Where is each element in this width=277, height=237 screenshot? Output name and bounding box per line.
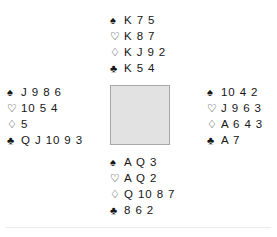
heart-icon: ♡ [207, 100, 221, 116]
hand-south-diamonds-holding: Q 10 8 7 [124, 186, 175, 202]
hand-east-spades-holding: 10 4 2 [221, 84, 258, 100]
bridge-deal-diagram: ♠ K 7 5 ♡ K 8 7 ♢ K J 9 2 ♣ K 5 4 ♠ J 9 … [0, 0, 277, 237]
diamond-icon: ♢ [7, 116, 21, 132]
spade-icon: ♠ [7, 84, 21, 100]
hand-south-spades-holding: A Q 3 [124, 154, 157, 170]
spade-icon: ♠ [207, 84, 221, 100]
diamond-icon: ♢ [110, 44, 124, 60]
club-icon: ♣ [7, 132, 21, 148]
hand-north-diamonds-row: ♢ K J 9 2 [110, 44, 166, 60]
hand-west: ♠ J 9 8 6 ♡ 10 5 4 ♢ 5 ♣ Q J 10 9 3 [7, 84, 83, 148]
hand-west-hearts-holding: 10 5 4 [21, 100, 58, 116]
hand-south: ♠ A Q 3 ♡ A Q 2 ♢ Q 10 8 7 ♣ 8 6 2 [110, 154, 175, 218]
hand-east-spades-row: ♠ 10 4 2 [207, 84, 263, 100]
hand-west-clubs-holding: Q J 10 9 3 [21, 132, 83, 148]
hand-north-hearts-holding: K 8 7 [124, 28, 155, 44]
heart-icon: ♡ [110, 28, 124, 44]
hand-east-clubs-holding: A 7 [221, 132, 240, 148]
hand-south-clubs-row: ♣ 8 6 2 [110, 202, 175, 218]
hand-east-diamonds-holding: A 6 4 3 [221, 116, 263, 132]
compass-center-box [110, 85, 170, 145]
hand-south-clubs-holding: 8 6 2 [124, 202, 154, 218]
hand-west-diamonds-row: ♢ 5 [7, 116, 83, 132]
hand-west-hearts-row: ♡ 10 5 4 [7, 100, 83, 116]
hand-east-hearts-holding: J 9 6 3 [221, 100, 262, 116]
hand-east-hearts-row: ♡ J 9 6 3 [207, 100, 263, 116]
hand-north-hearts-row: ♡ K 8 7 [110, 28, 166, 44]
hand-north-clubs-row: ♣ K 5 4 [110, 60, 166, 76]
club-icon: ♣ [207, 132, 221, 148]
spade-icon: ♠ [110, 12, 124, 28]
hand-north-spades-holding: K 7 5 [124, 12, 155, 28]
diamond-icon: ♢ [207, 116, 221, 132]
hand-west-spades-row: ♠ J 9 8 6 [7, 84, 83, 100]
hand-west-clubs-row: ♣ Q J 10 9 3 [7, 132, 83, 148]
hand-south-spades-row: ♠ A Q 3 [110, 154, 175, 170]
club-icon: ♣ [110, 202, 124, 218]
hand-east-clubs-row: ♣ A 7 [207, 132, 263, 148]
heart-icon: ♡ [110, 170, 124, 186]
hand-north: ♠ K 7 5 ♡ K 8 7 ♢ K J 9 2 ♣ K 5 4 [110, 12, 166, 76]
hand-north-clubs-holding: K 5 4 [124, 60, 155, 76]
hand-south-hearts-holding: A Q 2 [124, 170, 157, 186]
hand-south-hearts-row: ♡ A Q 2 [110, 170, 175, 186]
hand-north-spades-row: ♠ K 7 5 [110, 12, 166, 28]
hand-north-diamonds-holding: K J 9 2 [124, 44, 166, 60]
heart-icon: ♡ [7, 100, 21, 116]
hand-east: ♠ 10 4 2 ♡ J 9 6 3 ♢ A 6 4 3 ♣ A 7 [207, 84, 263, 148]
hand-west-spades-holding: J 9 8 6 [21, 84, 62, 100]
bottom-divider [6, 227, 271, 228]
hand-south-diamonds-row: ♢ Q 10 8 7 [110, 186, 175, 202]
hand-east-diamonds-row: ♢ A 6 4 3 [207, 116, 263, 132]
spade-icon: ♠ [110, 154, 124, 170]
club-icon: ♣ [110, 60, 124, 76]
diamond-icon: ♢ [110, 186, 124, 202]
hand-west-diamonds-holding: 5 [21, 116, 28, 132]
